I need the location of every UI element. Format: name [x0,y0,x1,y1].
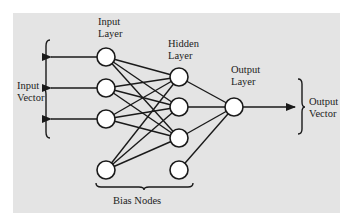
output-vector-brace [298,79,305,134]
input-arrows [51,57,97,119]
output-layer-label-line2: Layer [231,76,260,88]
hidden-layer-label: Hidden Layer [168,38,199,62]
network-diagram [0,0,352,223]
input-bias-node [97,161,115,179]
input-node-2 [97,79,115,97]
bias-nodes-brace [96,183,193,190]
input-layer-label-line2: Layer [98,28,122,40]
hidden-node-3 [170,129,188,147]
edge-input3-hidden3 [106,119,179,138]
input-node-3 [97,110,115,128]
bias-nodes-label-text: Bias Nodes [113,195,161,207]
edge-input4-hidden3 [106,138,179,170]
input-vector-label-line1: Input [17,80,44,92]
bias-nodes-label: Bias Nodes [113,195,161,207]
input-node-1 [97,48,115,66]
output-vector-label: Output Vector [309,96,338,120]
input-layer-label: Input Layer [98,16,122,40]
output-layer-label-line1: Output [231,64,260,76]
output-vector-label-line1: Output [309,96,338,108]
hidden-layer-label-line1: Hidden [168,38,199,50]
hidden-node-2 [170,98,188,116]
input-layer-label-line1: Input [98,16,122,28]
hidden-node-1 [170,68,188,86]
input-vector-label: Input Vector [17,80,44,104]
output-vector-label-line2: Vector [309,108,338,120]
input-vector-label-line2: Vector [17,92,44,104]
output-layer-label: Output Layer [231,64,260,88]
output-node-1 [225,98,243,116]
edge-input4-hidden2 [106,107,179,170]
hidden-layer-label-line2: Layer [168,50,199,62]
hidden-bias-node [170,161,188,179]
